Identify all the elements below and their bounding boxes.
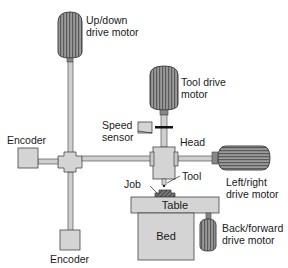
- job-label: Job: [124, 178, 141, 190]
- left-shaft: [38, 159, 58, 164]
- label-line: sensor: [102, 131, 134, 143]
- tool-drive-motor: [150, 66, 178, 115]
- leftright-motor-label: Left/right drive motor: [226, 176, 279, 200]
- bed-label: Bed: [138, 230, 194, 242]
- backforward-motor-label: Back/forward drive motor: [222, 222, 283, 246]
- cross-coupling: [58, 152, 82, 172]
- encoder-left-label: Encoder: [7, 134, 46, 146]
- tool-shaft: [161, 115, 167, 147]
- head: [150, 147, 178, 179]
- tool-label: Tool: [182, 170, 201, 182]
- label-line: Speed: [102, 119, 134, 131]
- tool-motor-label: Tool drive motor: [181, 76, 226, 100]
- updown-drive-motor: [58, 12, 82, 62]
- label-line: drive motor: [222, 234, 283, 246]
- backforward-drive-motor: [200, 213, 216, 251]
- head-label: Head: [180, 136, 205, 148]
- updown-motor-label: Up/down drive motor: [86, 14, 139, 38]
- speed-sensor-disk: [155, 126, 173, 129]
- speed-sensor-label: Speed sensor: [102, 119, 134, 143]
- job-leader: [150, 186, 157, 193]
- horizontal-shaft-left: [82, 156, 154, 161]
- label-line: Back/forward: [222, 222, 283, 234]
- encoder-bottom-label: Encoder: [50, 253, 89, 265]
- vertical-shaft-upper: [68, 62, 73, 154]
- encoder-bottom: [60, 230, 80, 250]
- label-line: Tool drive: [181, 76, 226, 88]
- leftright-drive-motor: [212, 146, 270, 170]
- label-line: drive motor: [226, 188, 279, 200]
- job: [155, 190, 175, 197]
- table-label: Table: [131, 199, 219, 211]
- label-line: drive motor: [86, 26, 139, 38]
- tool-tip: [163, 185, 165, 187]
- tool: [162, 179, 166, 185]
- encoder-left: [18, 148, 38, 168]
- vertical-shaft-lower: [68, 172, 73, 234]
- label-line: motor: [181, 88, 226, 100]
- label-line: Up/down: [86, 14, 139, 26]
- label-line: Left/right: [226, 176, 279, 188]
